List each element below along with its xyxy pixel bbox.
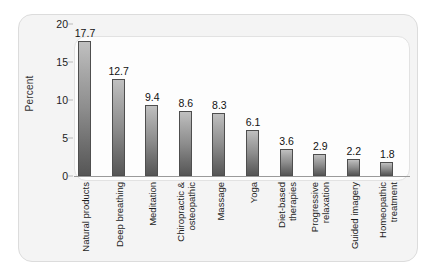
x-axis-category-label: Yoga (248, 182, 259, 203)
x-axis-category-label-line: Meditation (147, 182, 158, 226)
x-label-slot: Deep breathing (108, 180, 131, 273)
x-axis-category-label-line: Homeopathic (377, 182, 388, 238)
x-axis-category-label-line: therapies (287, 182, 298, 228)
x-axis-category-label-line: Yoga (248, 182, 259, 203)
y-axis-tick-label: 0 (34, 170, 68, 182)
x-axis-category-label-line: Diet-based (276, 182, 287, 228)
bar-value-label: 2.9 (303, 140, 337, 152)
bar-slot: 17.7 (74, 24, 97, 176)
x-axis-category-label: Massage (214, 182, 225, 221)
x-axis-category-label-line: Chiropractic & (175, 182, 186, 242)
bar-slot: 12.7 (108, 24, 131, 176)
bar[interactable] (313, 154, 326, 176)
y-axis-tick-mark (68, 62, 73, 63)
x-axis-category-label-line: osteopathic (186, 182, 197, 242)
x-axis-category-label: Deep breathing (113, 182, 124, 247)
bar-value-label: 17.7 (68, 27, 102, 39)
x-label-slot: Yoga (242, 180, 265, 273)
bar[interactable] (380, 162, 393, 176)
y-axis-tick-label: 15 (34, 56, 68, 68)
bar-slot: 1.8 (376, 24, 399, 176)
x-axis-category-label-line: relaxation (320, 182, 331, 232)
bar-value-label: 8.6 (169, 97, 203, 109)
bar[interactable] (179, 111, 192, 176)
bar[interactable] (112, 79, 125, 176)
plot-area: 17.712.79.48.68.36.13.62.92.21.8 (74, 24, 410, 176)
bar-value-label: 3.6 (270, 135, 304, 147)
bar-value-label: 9.4 (135, 91, 169, 103)
y-axis-tick-label: 10 (34, 94, 68, 106)
x-label-slot: Diet-basedtherapies (276, 180, 299, 273)
y-axis-tick-mark (68, 100, 73, 101)
bar[interactable] (246, 130, 259, 176)
x-axis-category-label: Natural products (80, 182, 91, 252)
x-axis-category-label-line: treatment (388, 182, 399, 238)
x-label-slot: Chiropractic &osteopathic (175, 180, 198, 273)
bar[interactable] (212, 113, 225, 176)
x-axis-category-label-line: Natural products (80, 182, 91, 252)
bar-value-label: 1.8 (370, 148, 404, 160)
x-label-slot: Progressiverelaxation (309, 180, 332, 273)
bar[interactable] (78, 41, 91, 176)
x-axis-category-label-line: Massage (214, 182, 225, 221)
bar-value-label: 12.7 (102, 65, 136, 77)
x-label-slot: Guided imagery (343, 180, 366, 273)
chart-figure: Percent 05101520 17.712.79.48.68.36.13.6… (0, 0, 445, 273)
y-axis-tick-label: 5 (34, 132, 68, 144)
x-axis-category-label: Meditation (147, 182, 158, 226)
bar-slot: 8.6 (175, 24, 198, 176)
x-label-slot: Massage (208, 180, 231, 273)
bar-value-label: 2.2 (337, 145, 371, 157)
y-axis-tick-mark (68, 176, 73, 177)
bar-slot: 6.1 (242, 24, 265, 176)
y-axis-ticks: 05101520 (24, 0, 68, 273)
x-axis-category-labels: Natural productsDeep breathingMeditation… (74, 180, 410, 273)
x-axis-category-label: Guided imagery (349, 182, 360, 249)
y-axis-tick-mark (68, 24, 73, 25)
bar-value-label: 8.3 (202, 99, 236, 111)
bar-slot: 2.9 (309, 24, 332, 176)
bar-slot: 9.4 (141, 24, 164, 176)
y-axis-tick-mark (68, 138, 73, 139)
x-axis-category-label-line: Deep breathing (113, 182, 124, 247)
x-axis-category-label: Progressiverelaxation (309, 182, 331, 232)
bar[interactable] (280, 149, 293, 176)
bar-slot: 3.6 (276, 24, 299, 176)
y-axis-tick-label: 20 (34, 18, 68, 30)
x-label-slot: Natural products (74, 180, 97, 273)
bar-slot: 2.2 (343, 24, 366, 176)
x-axis-category-label-line: Guided imagery (349, 182, 360, 249)
x-axis-baseline (74, 176, 410, 177)
bar[interactable] (347, 159, 360, 176)
bar[interactable] (145, 105, 158, 176)
bar-slot: 8.3 (208, 24, 231, 176)
x-label-slot: Meditation (141, 180, 164, 273)
x-axis-category-label: Diet-basedtherapies (276, 182, 298, 228)
x-axis-category-label: Homeopathictreatment (377, 182, 399, 238)
x-axis-category-label-line: Progressive (309, 182, 320, 232)
x-label-slot: Homeopathictreatment (376, 180, 399, 273)
x-axis-category-label: Chiropractic &osteopathic (175, 182, 197, 242)
bar-value-label: 6.1 (236, 116, 270, 128)
